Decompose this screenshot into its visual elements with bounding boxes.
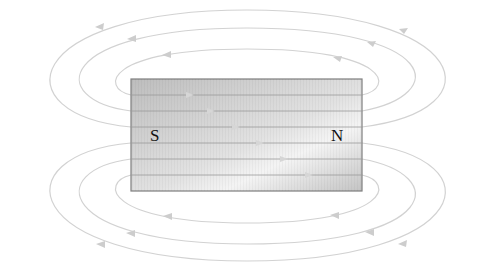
- north-pole-label: N: [331, 127, 343, 144]
- arrow-left-icon: [96, 241, 105, 248]
- arrow-left-icon: [330, 212, 339, 219]
- bar-magnet: [131, 79, 362, 191]
- arrow-left-icon: [367, 41, 376, 47]
- arrow-left-icon: [162, 51, 171, 58]
- magnet-field-diagram: [0, 0, 484, 273]
- arrow-left-icon: [398, 240, 407, 247]
- arrow-left-icon: [95, 23, 104, 30]
- arrow-left-icon: [333, 56, 342, 62]
- south-pole-label: S: [150, 127, 159, 144]
- arrow-left-icon: [163, 213, 172, 220]
